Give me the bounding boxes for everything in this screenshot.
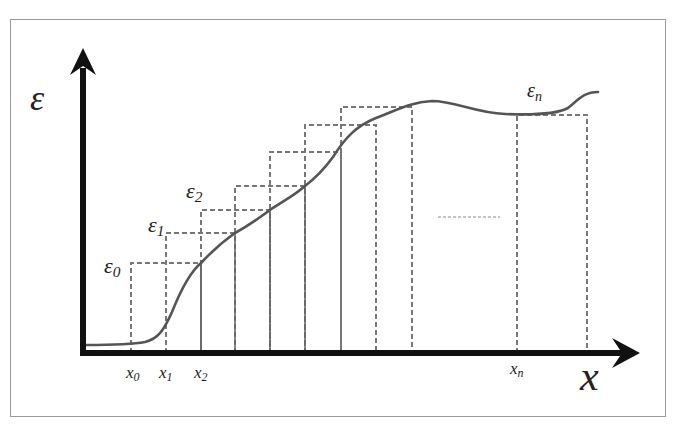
epsilon-2-label: ε2 (186, 180, 202, 204)
rect-n (517, 115, 587, 353)
epsilon-n-label: εn (527, 80, 542, 104)
dashed-rectangles (131, 107, 587, 353)
x2-label: x2 (194, 364, 208, 384)
x-axis-label: x (580, 355, 599, 397)
y-axis-label: ε (30, 80, 44, 116)
axes (70, 48, 640, 368)
epsilon-1-label: ε1 (148, 214, 164, 238)
diagram-canvas (0, 0, 674, 426)
epsilon-0-label: ε0 (104, 255, 120, 279)
x1-label: x1 (159, 364, 173, 384)
xn-label: xn (510, 360, 524, 380)
x0-label: x0 (126, 364, 140, 384)
grid-verticals (201, 186, 305, 353)
